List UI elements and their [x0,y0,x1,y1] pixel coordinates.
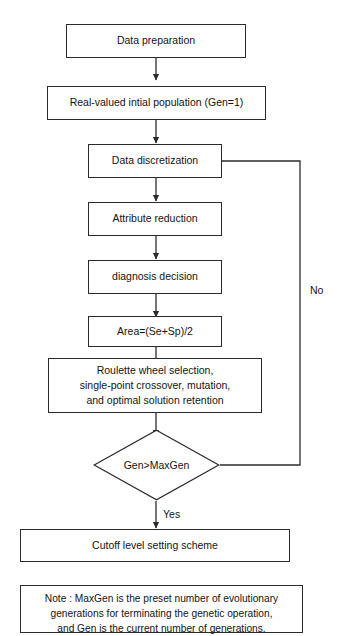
note-line-3: and Gen is the current number of generat… [26,622,297,636]
node-label: Gen>MaxGen [93,429,220,501]
node-label: Real-valued intial population (Gen=1) [70,96,244,110]
flowchart-canvas: Data preparation Real-valued intial popu… [0,0,349,636]
node-label: Cutoff level setting scheme [92,539,218,553]
node-genetic-operations[interactable]: Roulette wheel selection, single-point c… [48,358,262,413]
node-label: Data discretization [112,154,198,168]
node-attribute-reduction[interactable]: Attribute reduction [88,202,222,236]
node-data-discretization[interactable]: Data discretization [88,144,222,178]
node-label: Area=(Se+Sp)/2 [117,325,193,339]
node-diagnosis-decision[interactable]: diagnosis decision [88,260,222,294]
node-label-line-3: and optimal solution retention [86,393,223,408]
note-line-2: generations for terminating the genetic … [26,607,297,622]
node-label: Attribute reduction [112,212,197,226]
note-line-1: Note : MaxGen is the preset number of ev… [26,592,297,607]
node-data-preparation[interactable]: Data preparation [66,24,246,58]
edge-label-yes: Yes [163,508,180,520]
edge-label-no: No [310,284,323,296]
node-gen-max-gen-decision[interactable]: Gen>MaxGen [93,429,220,501]
node-area-formula[interactable]: Area=(Se+Sp)/2 [88,316,222,347]
node-label-line-1: Roulette wheel selection, [97,363,214,378]
node-label: diagnosis decision [112,270,198,284]
node-label-line-2: single-point crossover, mutation, [80,378,231,393]
note-box: Note : MaxGen is the preset number of ev… [20,585,303,633]
node-label: Data preparation [117,34,195,48]
node-initial-population[interactable]: Real-valued intial population (Gen=1) [47,86,266,120]
node-cutoff-level-scheme[interactable]: Cutoff level setting scheme [20,529,290,562]
